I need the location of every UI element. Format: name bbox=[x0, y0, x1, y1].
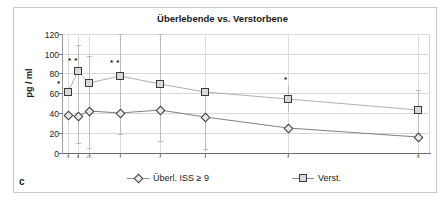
y-tickmark-40 bbox=[59, 113, 62, 114]
legend-line-ueberlebende bbox=[127, 174, 149, 182]
datapoint-verst-05 bbox=[85, 79, 93, 87]
legend-item-verstorbene[interactable]: Verst. bbox=[292, 170, 341, 186]
errorbar-cap-2-bottom bbox=[158, 141, 163, 142]
datapoint-verst-2 bbox=[156, 80, 164, 88]
y-tickmark-0 bbox=[59, 153, 62, 154]
legend-line-verstorbene bbox=[292, 174, 314, 182]
y-tick-100: 100 bbox=[33, 50, 59, 60]
chart-legend: Überl. ISS ≥ 9 Verst. bbox=[62, 170, 430, 186]
legend-item-ueberlebende[interactable]: Überl. ISS ≥ 9 bbox=[127, 170, 209, 186]
y-tick-120: 120 bbox=[33, 30, 59, 40]
errorbar-a bbox=[78, 45, 79, 143]
errorbar-cap-a-bottom bbox=[76, 143, 81, 144]
datapoint-verst-1 bbox=[116, 72, 124, 80]
legend-label-ueberlebende: Überl. ISS ≥ 9 bbox=[153, 173, 209, 183]
y-tick-80: 80 bbox=[33, 69, 59, 79]
errorbar-cap-4-bottom bbox=[203, 149, 208, 150]
datapoint-verst-u bbox=[64, 88, 72, 96]
legend-label-verstorbene: Verst. bbox=[318, 173, 341, 183]
significance-marker-8: * bbox=[284, 76, 288, 84]
y-tick-40: 40 bbox=[33, 109, 59, 119]
figure-panel-c: Überlebende vs. Verstorbene pg / ml 120 … bbox=[0, 0, 445, 204]
errorbar-cap-05-top bbox=[87, 56, 92, 57]
panel-letter: c bbox=[19, 177, 25, 187]
x-tick-label-2: 2 bbox=[153, 155, 167, 159]
datapoint-verst-8 bbox=[284, 95, 292, 103]
errorbar-cap-1-bottom bbox=[118, 134, 123, 135]
y-tick-0: 0 bbox=[33, 149, 59, 159]
plot-area bbox=[62, 34, 431, 154]
errorbar-1 bbox=[120, 34, 121, 134]
errorbar-cap-24-top bbox=[416, 90, 421, 91]
y-tickmark-80 bbox=[59, 73, 62, 74]
chart-title: Überlebende vs. Verstorbene bbox=[0, 13, 445, 24]
y-tickmark-120 bbox=[59, 34, 62, 35]
y-tickmark-60 bbox=[59, 93, 62, 94]
plot-frame-right bbox=[429, 34, 430, 153]
errorbar-cap-a-top bbox=[76, 45, 81, 46]
y-tick-60: 60 bbox=[33, 89, 59, 99]
legend-square-icon bbox=[299, 174, 307, 182]
significance-marker-a: * * bbox=[68, 57, 78, 65]
x-tick-label-12: 12 bbox=[411, 155, 425, 159]
errorbar-cap-2-top bbox=[158, 34, 163, 35]
datapoint-verst-4 bbox=[201, 88, 209, 96]
y-tickmark-100 bbox=[59, 54, 62, 55]
y-axis-label: pg / ml bbox=[24, 53, 34, 113]
errorbar-cap-05-bottom bbox=[87, 148, 92, 149]
y-tick-20: 20 bbox=[33, 129, 59, 139]
x-tick-label-8: 8 bbox=[281, 155, 295, 159]
datapoint-verst-a bbox=[74, 67, 82, 75]
errorbar-cap-1-top bbox=[118, 34, 123, 35]
datapoint-verst-24 bbox=[414, 106, 422, 114]
significance-marker-1: * * bbox=[110, 59, 120, 67]
legend-diamond-icon bbox=[133, 173, 143, 183]
significance-marker-u: * bbox=[57, 80, 61, 88]
errorbar-05 bbox=[89, 56, 90, 148]
x-tick-label-05: 0,5 bbox=[82, 155, 96, 159]
x-tick-label-4: 4 bbox=[198, 155, 212, 159]
y-tickmark-20 bbox=[59, 133, 62, 134]
x-tick-label-1: 1 bbox=[113, 155, 127, 159]
